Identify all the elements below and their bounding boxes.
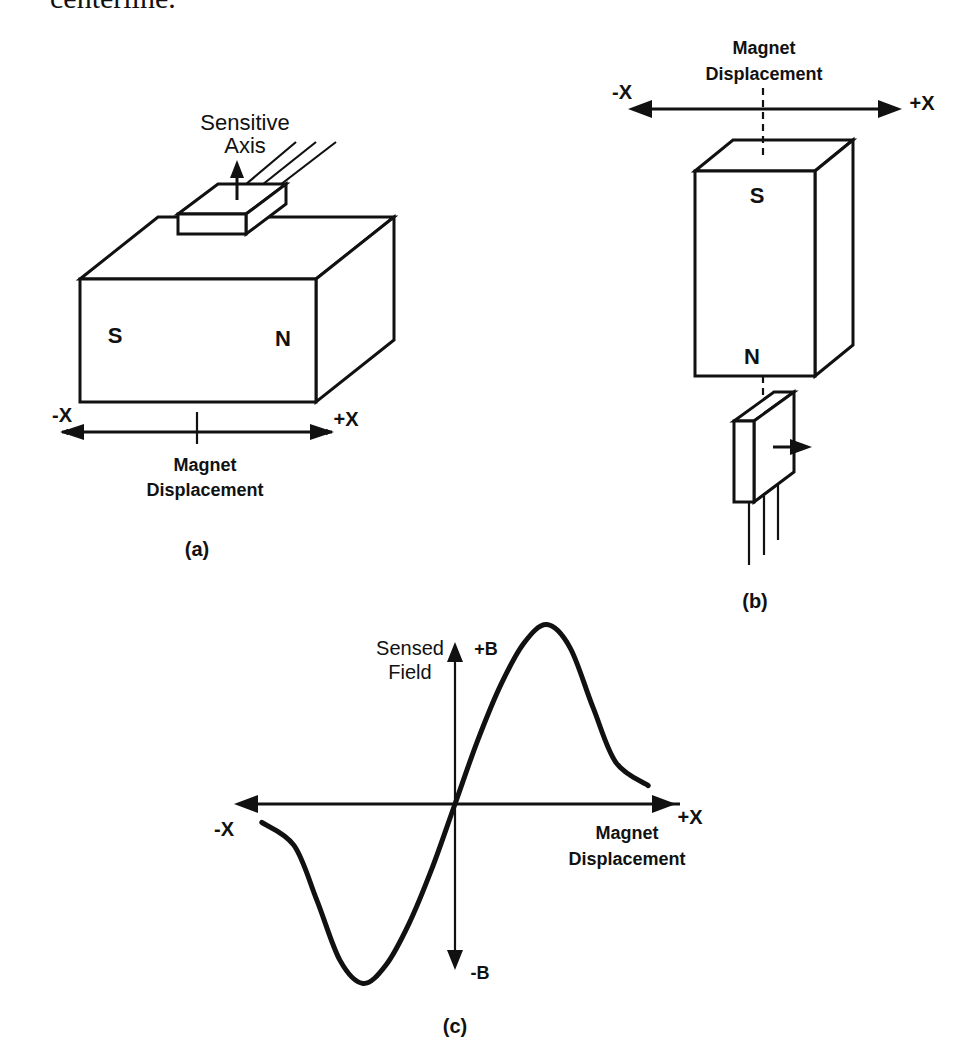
x-label-1: Magnet	[596, 823, 659, 843]
y-label-1: Sensed	[376, 637, 444, 659]
figure-canvas: centerline. Sensitive Axis S N -X +X Mag…	[0, 0, 968, 1052]
figure-c-chart: Sensed Field +B -B -X +X Magnet Displace…	[214, 625, 703, 1037]
pole-b-s-label: S	[750, 183, 765, 208]
x-minus-label: -X	[214, 818, 235, 840]
top-text: centerline.	[50, 0, 176, 14]
magnet-b-side-face	[815, 140, 853, 376]
sensitive-axis-label-2: Axis	[224, 133, 266, 158]
pole-b-n-label: N	[744, 344, 760, 369]
y-axis-bottom-arrowhead-icon	[447, 950, 463, 970]
x-axis-right-arrowhead-icon	[652, 795, 676, 813]
displacement-label-b-1: Magnet	[733, 38, 796, 58]
caption-b: (b)	[742, 590, 768, 612]
pole-s-label: S	[108, 323, 123, 348]
sensor-b-front-face	[734, 421, 754, 502]
axis-right-arrowhead-icon	[310, 424, 334, 440]
x-label-2: Displacement	[568, 849, 685, 869]
figure-b: Magnet Displacement -X +X S N (b)	[612, 38, 935, 612]
caption-c: (c)	[443, 1015, 467, 1037]
sensor-front-face	[178, 214, 246, 234]
pole-n-label: N	[275, 326, 291, 351]
figure-a: Sensitive Axis S N -X +X Magnet Displace…	[52, 110, 394, 560]
axis-left-arrowhead-icon	[60, 424, 84, 440]
sensitive-axis-label-1: Sensitive	[200, 110, 289, 135]
displacement-label-1: Magnet	[174, 455, 237, 475]
axis-b-minus-x-label: -X	[612, 81, 633, 103]
displacement-label-b-2: Displacement	[705, 64, 822, 84]
displacement-label-2: Displacement	[146, 480, 263, 500]
y-plus-b-label: +B	[474, 639, 498, 659]
x-plus-label: +X	[677, 806, 703, 828]
axis-b-right-arrowhead-icon	[878, 100, 902, 118]
sensitive-axis-arrowhead-icon	[230, 160, 244, 178]
y-label-2: Field	[388, 661, 431, 683]
axis-plus-x-label: +X	[333, 408, 359, 430]
y-minus-b-label: -B	[471, 963, 490, 983]
axis-b-plus-x-label: +X	[909, 92, 935, 114]
axis-minus-x-label: -X	[52, 404, 73, 426]
y-axis-top-arrowhead-icon	[447, 642, 463, 662]
caption-a: (a)	[185, 538, 209, 560]
x-axis-left-arrowhead-icon	[234, 795, 258, 813]
sensitive-axis-b-arrowhead-icon	[790, 439, 812, 455]
